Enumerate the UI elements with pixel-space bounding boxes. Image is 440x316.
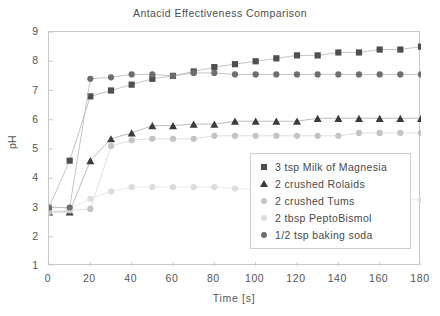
legend-marker-triangle-icon <box>257 177 271 191</box>
y-tick-label: 1 <box>4 260 38 270</box>
x-axis-title: Time [s] <box>48 292 420 304</box>
data-point <box>335 71 341 77</box>
x-tick-label: 180 <box>400 273 440 283</box>
data-point <box>129 71 135 77</box>
y-tick-label: 9 <box>4 26 38 36</box>
y-tick-label: 2 <box>4 231 38 241</box>
legend-item-3[interactable]: 2 tbsp PeptoBismol <box>251 209 410 226</box>
data-point <box>129 82 135 88</box>
data-point <box>397 130 403 136</box>
data-point <box>418 71 421 77</box>
data-point <box>211 64 217 70</box>
data-point <box>170 136 176 142</box>
chart-title: Antacid Effectiveness Comparison <box>0 7 440 19</box>
x-tick-label: 160 <box>359 273 399 283</box>
data-point <box>418 130 421 136</box>
data-point <box>335 49 341 55</box>
y-tick-label: 3 <box>4 202 38 212</box>
data-point <box>67 158 73 164</box>
y-tick-label: 4 <box>4 172 38 182</box>
legend-marker-circle-icon <box>257 211 271 225</box>
x-tick-label: 60 <box>152 273 192 283</box>
data-point <box>87 196 93 202</box>
legend-label: 3 tsp Milk of Magnesia <box>275 161 387 173</box>
data-point <box>107 135 115 142</box>
chart-legend: 3 tsp Milk of Magnesia2 crushed Rolaids2… <box>250 153 411 249</box>
y-tick-label: 6 <box>4 114 38 124</box>
data-point <box>335 133 341 139</box>
data-point <box>170 73 176 79</box>
data-point <box>129 184 135 190</box>
data-point <box>232 61 238 67</box>
data-point <box>149 136 155 142</box>
data-point <box>253 58 259 64</box>
data-point <box>294 52 300 58</box>
data-point <box>315 133 321 139</box>
data-point <box>108 188 114 194</box>
data-point <box>232 71 238 77</box>
data-point <box>211 184 217 190</box>
legend-marker-circle-icon <box>257 194 271 208</box>
y-axis-title: pH <box>6 122 18 162</box>
legend-item-4[interactable]: 1/2 tsp baking soda <box>251 226 410 243</box>
data-point <box>356 71 362 77</box>
chart-container: Antacid Effectiveness Comparison pH Time… <box>0 0 440 316</box>
data-point <box>377 71 383 77</box>
data-point <box>253 71 259 77</box>
legend-marker-circle-icon <box>257 228 271 242</box>
data-point <box>149 71 155 77</box>
data-point <box>128 129 136 136</box>
data-point <box>211 133 217 139</box>
legend-marker-square-icon <box>257 160 271 174</box>
data-point <box>356 130 362 136</box>
data-point <box>108 143 114 149</box>
legend-label: 2 tbsp PeptoBismol <box>275 212 372 224</box>
data-point <box>418 44 421 50</box>
data-point <box>253 133 259 139</box>
data-point <box>211 70 217 76</box>
data-point <box>397 46 403 52</box>
legend-label: 1/2 tsp baking soda <box>275 229 373 241</box>
data-point <box>315 52 321 58</box>
x-tick-label: 80 <box>193 273 233 283</box>
data-point <box>294 133 300 139</box>
data-point <box>191 136 197 142</box>
data-point <box>87 206 93 212</box>
data-point <box>315 71 321 77</box>
x-tick-label: 20 <box>69 273 109 283</box>
data-point <box>356 49 362 55</box>
data-point <box>397 71 403 77</box>
legend-item-0[interactable]: 3 tsp Milk of Magnesia <box>251 158 410 175</box>
data-point <box>377 130 383 136</box>
legend-label: 2 crushed Tums <box>275 195 355 207</box>
data-point <box>232 185 238 191</box>
y-tick-label: 5 <box>4 143 38 153</box>
data-point <box>108 87 114 93</box>
x-tick-label: 0 <box>28 273 68 283</box>
data-point <box>377 46 383 52</box>
legend-label: 2 crushed Rolaids <box>275 178 365 190</box>
legend-item-1[interactable]: 2 crushed Rolaids <box>251 175 410 192</box>
x-tick-label: 100 <box>235 273 275 283</box>
data-point <box>273 71 279 77</box>
data-point <box>273 55 279 61</box>
data-point <box>170 184 176 190</box>
legend-item-2[interactable]: 2 crushed Tums <box>251 192 410 209</box>
data-point <box>418 197 421 203</box>
data-point <box>108 74 114 80</box>
x-tick-label: 120 <box>276 273 316 283</box>
x-tick-label: 140 <box>317 273 357 283</box>
data-point <box>129 137 135 143</box>
data-point <box>294 71 300 77</box>
data-point <box>67 204 73 210</box>
data-point <box>191 70 197 76</box>
data-point <box>149 184 155 190</box>
data-point <box>191 184 197 190</box>
x-tick-label: 40 <box>111 273 151 283</box>
y-tick-label: 7 <box>4 85 38 95</box>
data-point <box>232 133 238 139</box>
data-point <box>273 133 279 139</box>
y-tick-label: 8 <box>4 55 38 65</box>
data-point <box>87 76 93 82</box>
